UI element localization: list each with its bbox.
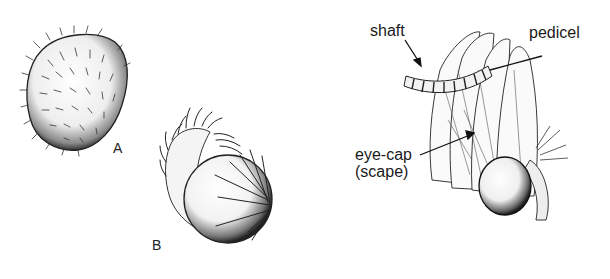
label-pedicel: pedicel <box>529 24 580 41</box>
label-scape: (scape) <box>355 163 408 180</box>
panel-a-letter: A <box>113 140 123 156</box>
panel-c-antenna <box>404 32 568 220</box>
panel-b-eye <box>160 108 272 243</box>
label-shaft: shaft <box>370 22 405 39</box>
panel-b-letter: B <box>152 237 161 253</box>
panel-a-eye <box>20 26 130 156</box>
label-eyecap: eye-cap <box>355 146 412 163</box>
illustration-canvas: B A <box>0 0 610 279</box>
